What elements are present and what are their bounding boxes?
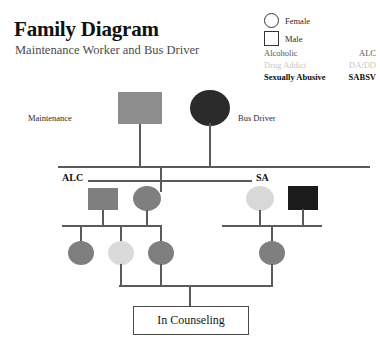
connector-g1-center-stem (160, 166, 162, 192)
node-generation3-right-child1 (259, 241, 285, 265)
legend-item-female: Female (264, 12, 376, 29)
connector-outcome-left-a (120, 264, 122, 286)
node-label-maintenance: Maintenance (28, 113, 72, 123)
legend-item-alcoholic: Alcoholic ALC (264, 48, 376, 59)
relationship-label-sa: SA (256, 172, 269, 183)
node-generation1-mother (190, 90, 230, 126)
legend-item-sexually-abusive: Sexually Abusive SABSV (264, 72, 376, 83)
outcome-label: In Counseling (157, 313, 225, 328)
connector-outcome-right-a (271, 264, 273, 286)
node-generation1-father (118, 92, 162, 124)
node-generation2-right-male (288, 186, 318, 210)
node-generation2-left-male (88, 188, 118, 210)
node-generation3-left-child2 (108, 241, 134, 265)
page-subtitle: Maintenance Worker and Bus Driver (15, 43, 199, 58)
node-generation3-left-child3 (148, 241, 174, 265)
connector-g2-left-union-line (62, 225, 162, 227)
page-title: Family Diagram (14, 17, 159, 42)
connector-sa-rule (162, 180, 252, 182)
connector-g1-father-drop (139, 124, 141, 167)
legend-name-sexually-abusive: Sexually Abusive (264, 72, 326, 83)
node-generation2-left-female (133, 186, 161, 211)
connector-g2-left-male-drop (102, 210, 104, 226)
connector-g2-right-female-drop (259, 210, 261, 226)
legend: Female Male Alcoholic ALC Drug Addict DA… (264, 12, 376, 83)
female-circle-icon (264, 13, 279, 28)
relationship-label-alc: ALC (62, 172, 83, 183)
connector-outcome-stem (189, 285, 191, 306)
legend-code-alcoholic: ALC (359, 48, 376, 59)
legend-item-drug-addict: Drug Addict DA/DD (264, 60, 376, 71)
outcome-box: In Counseling (133, 306, 249, 335)
connector-g1-mother-drop (209, 123, 211, 167)
connector-outcome-bus (119, 285, 273, 287)
legend-code-sexually-abusive: SABSV (349, 72, 376, 83)
legend-name-drug-addict: Drug Addict (264, 60, 306, 71)
legend-name-alcoholic: Alcoholic (264, 48, 298, 59)
node-generation3-left-child1 (68, 241, 94, 265)
legend-label-male: Male (285, 34, 302, 44)
connector-outcome-left-b (160, 264, 162, 286)
legend-item-male: Male (264, 30, 376, 47)
connector-alc-rule (88, 180, 160, 182)
connector-g2-left-female-drop (146, 210, 148, 226)
legend-code-drug-addict: DA/DD (349, 60, 376, 71)
connector-g1-union-line (58, 166, 370, 168)
legend-label-female: Female (285, 16, 310, 26)
connector-g2-right-male-drop (302, 209, 304, 226)
node-generation2-right-female (246, 186, 274, 211)
male-square-icon (264, 31, 279, 46)
node-label-bus-driver: Bus Driver (238, 113, 276, 123)
family-diagram-page: Family Diagram Maintenance Worker and Bu… (0, 0, 380, 347)
